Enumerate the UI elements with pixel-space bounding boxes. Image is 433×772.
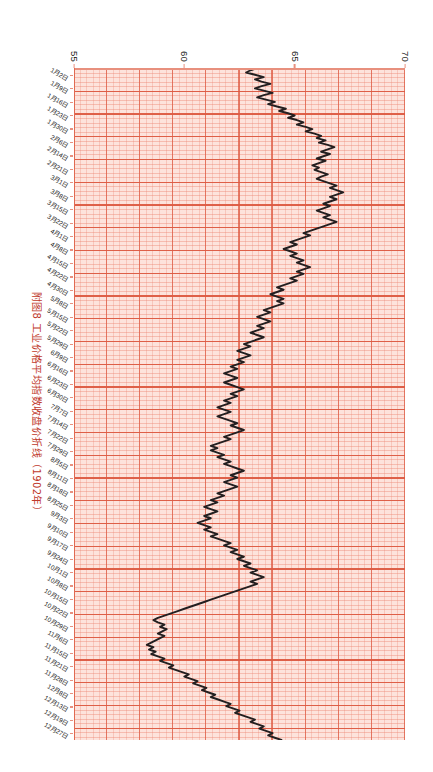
plot-area <box>74 68 405 740</box>
x-axis-tick-mark <box>70 559 73 560</box>
figure-page: 70656055 1月2日1月9日1月16日1月23日1月30日2月6日2月14… <box>0 0 433 772</box>
x-axis-tick-mark <box>70 626 73 627</box>
x-axis-tick-mark <box>70 693 73 694</box>
x-axis-tick-mark <box>70 128 73 129</box>
x-axis-tick-mark <box>70 209 73 210</box>
x-axis-tick-mark <box>70 706 73 707</box>
rotated-figure: 70656055 1月2日1月9日1月16日1月23日1月30日2月6日2月14… <box>17 16 417 756</box>
x-axis-tick-mark <box>70 491 73 492</box>
y-axis-tick-label: 60 <box>178 51 189 62</box>
figure-caption: 附图8 工业价格平均指数收盘价折线（1902年） <box>30 68 45 740</box>
x-axis-tick-mark <box>70 585 73 586</box>
x-axis-tick-mark <box>70 290 73 291</box>
x-axis-tick-mark <box>70 464 73 465</box>
y-axis-tick-label: 70 <box>399 51 410 62</box>
x-axis-tick-mark <box>70 720 73 721</box>
x-axis-tick-mark <box>70 451 73 452</box>
x-axis-tick-mark <box>70 276 73 277</box>
x-axis-tick-mark <box>70 344 73 345</box>
axis-spine-bottom <box>74 68 76 740</box>
x-axis-tick-mark <box>70 182 73 183</box>
x-axis-tick-mark <box>70 317 73 318</box>
y-axis-tick-label: 65 <box>289 51 300 62</box>
x-axis-tick-mark <box>70 599 73 600</box>
x-axis-tick-mark <box>70 370 73 371</box>
x-axis-tick-mark <box>70 666 73 667</box>
x-axis-tick-mark <box>70 639 73 640</box>
x-axis-tick-mark <box>70 518 73 519</box>
plot-canvas <box>74 68 405 740</box>
x-axis-tick-mark <box>70 169 73 170</box>
x-axis-tick-mark <box>70 680 73 681</box>
x-axis-tick-mark <box>70 102 73 103</box>
price-line-series <box>74 68 405 740</box>
x-axis-tick-mark <box>70 155 73 156</box>
x-axis-tick-mark <box>70 303 73 304</box>
axis-spine-left <box>74 68 405 70</box>
x-axis-tick-mark <box>70 236 73 237</box>
x-axis-tick-mark <box>70 572 73 573</box>
x-axis-tick-mark <box>70 223 73 224</box>
x-axis-tick-mark <box>70 115 73 116</box>
x-axis-tick-mark <box>70 505 73 506</box>
x-axis-tick-mark <box>70 196 73 197</box>
x-axis-tick-mark <box>70 384 73 385</box>
x-axis-tick-mark <box>70 478 73 479</box>
x-axis-tick-mark <box>70 612 73 613</box>
x-axis-tick-mark <box>70 142 73 143</box>
x-axis-tick-mark <box>70 653 73 654</box>
x-axis-tick-mark <box>70 424 73 425</box>
x-axis-tick-mark <box>70 330 73 331</box>
x-axis-tick-mark <box>70 411 73 412</box>
x-axis-tick-mark <box>70 88 73 89</box>
y-axis: 70656055 <box>74 16 405 68</box>
x-axis-tick-mark <box>70 75 73 76</box>
price-line-path <box>146 68 342 740</box>
x-axis-tick-mark <box>70 545 73 546</box>
x-axis-tick-mark <box>70 397 73 398</box>
x-axis-tick-mark <box>70 532 73 533</box>
x-axis-tick-mark <box>70 263 73 264</box>
x-axis-tick-mark <box>70 249 73 250</box>
x-axis-tick-mark <box>70 438 73 439</box>
x-axis-tick-mark <box>70 733 73 734</box>
x-axis-tick-mark <box>70 357 73 358</box>
y-axis-tick-label: 55 <box>68 51 79 62</box>
